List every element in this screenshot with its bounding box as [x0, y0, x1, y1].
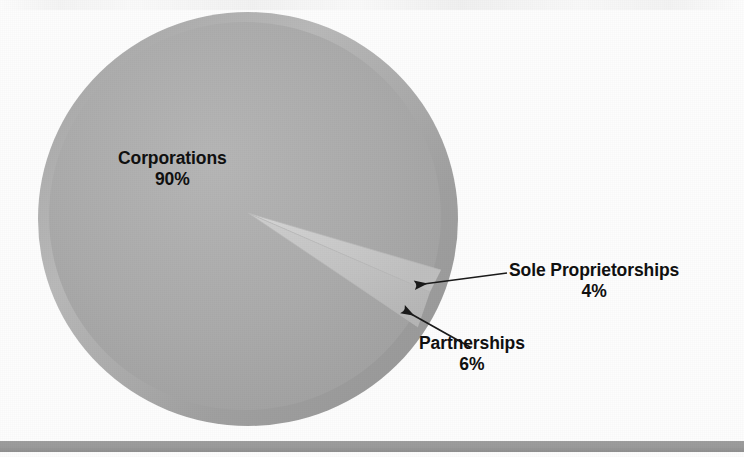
pie-chart-graphic [0, 0, 744, 457]
slice-label-corporations-value: 90% [118, 169, 227, 190]
slice-label-sole-proprietorships: Sole Proprietorships 4% [509, 260, 679, 303]
slice-label-partnerships: Partnerships 6% [419, 333, 525, 376]
slice-label-partnerships-value: 6% [419, 354, 525, 375]
slice-label-corporations-name: Corporations [118, 148, 227, 169]
slice-label-partnerships-name: Partnerships [419, 333, 525, 354]
bottom-divider-bar [0, 441, 744, 452]
slice-label-sole-proprietorships-name: Sole Proprietorships [509, 260, 679, 281]
slice-label-sole-proprietorships-value: 4% [509, 281, 679, 302]
chart-page: Corporations 90% Sole Proprietorships 4%… [0, 0, 744, 457]
slice-label-corporations: Corporations 90% [118, 148, 227, 191]
pie-slice-corporations [49, 22, 441, 410]
